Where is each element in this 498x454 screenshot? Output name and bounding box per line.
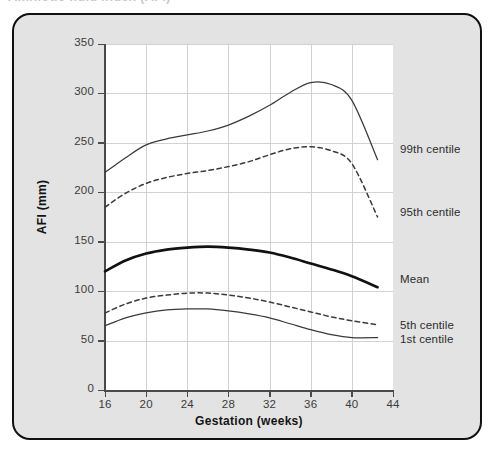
afi-centile-chart: 050100150200250300350 1620242832364044 9… <box>0 0 498 454</box>
curve-95th-centile <box>105 147 378 217</box>
y-axis-title: AFI (mm) <box>35 147 49 267</box>
series-label-95th-centile: 95th centile <box>400 206 461 218</box>
series-label-1st-centile: 1st centile <box>400 333 453 345</box>
series-label-99th-centile: 99th centile <box>400 143 461 155</box>
curve-99th-centile <box>105 82 378 173</box>
curve-mean <box>105 247 378 288</box>
curve-5th-centile <box>105 293 378 325</box>
series-label-mean: Mean <box>400 273 429 285</box>
curve-1st-centile <box>105 309 378 338</box>
series-label-5th-centile: 5th centile <box>400 319 454 331</box>
x-axis-title: Gestation (weeks) <box>105 414 393 428</box>
centile-curves <box>0 0 498 454</box>
